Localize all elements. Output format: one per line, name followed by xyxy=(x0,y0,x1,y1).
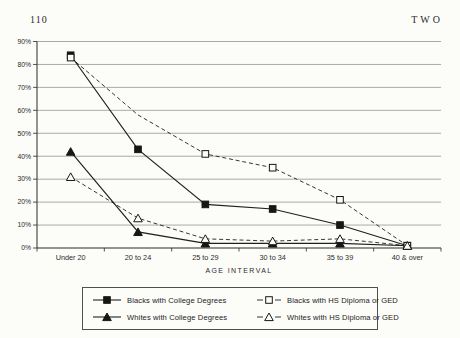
legend-key-filled-triangle-icon xyxy=(92,311,122,323)
legend-item-blacks-hs: Blacks with HS Diploma or GED xyxy=(256,294,399,306)
svg-text:40%: 40% xyxy=(17,153,31,160)
chart-legend: Blacks with College Degrees Blacks with … xyxy=(82,287,378,330)
svg-text:AGE INTERVAL: AGE INTERVAL xyxy=(205,267,272,274)
svg-text:90%: 90% xyxy=(17,38,31,45)
svg-text:70%: 70% xyxy=(17,84,31,91)
svg-text:0%: 0% xyxy=(21,244,31,251)
svg-text:Under 20: Under 20 xyxy=(56,253,86,262)
svg-text:30 to 34: 30 to 34 xyxy=(259,253,285,262)
line-chart: 90%80%70%60%50%40%30%20%10%0%Under 2020 … xyxy=(0,0,460,284)
svg-text:50%: 50% xyxy=(17,130,31,137)
svg-text:25 to 29: 25 to 29 xyxy=(192,253,218,262)
legend-label: Whites with College Degrees xyxy=(127,313,227,322)
legend-key-open-triangle-icon xyxy=(256,311,282,323)
svg-text:40 & over: 40 & over xyxy=(392,253,424,262)
legend-item-whites-college: Whites with College Degrees xyxy=(92,311,254,323)
legend-key-filled-square-icon xyxy=(92,294,122,306)
svg-text:20 to 24: 20 to 24 xyxy=(125,253,151,262)
legend-label: Blacks with College Degrees xyxy=(127,296,226,305)
svg-text:60%: 60% xyxy=(17,107,31,114)
legend-label: Blacks with HS Diploma or GED xyxy=(287,296,398,305)
svg-text:20%: 20% xyxy=(17,198,31,205)
legend-item-whites-hs: Whites with HS Diploma or GED xyxy=(256,311,399,323)
svg-text:30%: 30% xyxy=(17,175,31,182)
svg-text:80%: 80% xyxy=(17,61,31,68)
book-page: 110 TWO 90%80%70%60%50%40%30%20%10%0%Und… xyxy=(0,0,460,338)
svg-text:10%: 10% xyxy=(17,221,31,228)
legend-item-blacks-college: Blacks with College Degrees xyxy=(92,294,254,306)
svg-text:35 to 39: 35 to 39 xyxy=(327,253,353,262)
legend-key-open-square-icon xyxy=(256,294,282,306)
legend-label: Whites with HS Diploma or GED xyxy=(287,313,399,322)
